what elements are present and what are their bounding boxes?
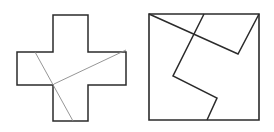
piece-edge — [173, 14, 217, 120]
square-figure — [149, 14, 259, 120]
dissection-diagram — [0, 0, 274, 132]
cross-figure — [17, 15, 126, 121]
square-outline — [149, 14, 259, 120]
square-cut-lines — [149, 14, 259, 120]
cross-outline — [17, 15, 126, 121]
cut-line — [54, 50, 126, 84]
cut-line — [35, 52, 73, 121]
piece-edge — [149, 14, 259, 54]
